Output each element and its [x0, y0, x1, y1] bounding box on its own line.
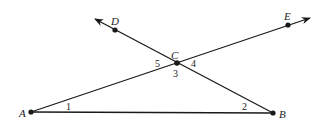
- ray-ace: [31, 18, 310, 112]
- label-point-a: A: [18, 107, 26, 119]
- angle-label-4: 4: [191, 58, 196, 69]
- angle-label-3: 3: [173, 68, 178, 79]
- angle-label-2: 2: [242, 101, 247, 112]
- geometry-diagram: A B C D E 1 2 3 4 5: [0, 0, 324, 125]
- label-point-b: B: [279, 108, 286, 120]
- point-e-dot: [285, 22, 290, 27]
- ray-bcd: [95, 19, 273, 113]
- angle-label-5: 5: [155, 58, 160, 69]
- point-d-dot: [112, 27, 117, 32]
- segment-ab: [31, 112, 273, 113]
- point-a-dot: [28, 109, 33, 114]
- point-c-dot: [174, 60, 180, 66]
- diagram-canvas: A B C D E 1 2 3 4 5: [0, 0, 324, 125]
- label-point-d: D: [110, 15, 119, 27]
- point-b-dot: [270, 110, 275, 115]
- angle-label-1: 1: [66, 101, 71, 112]
- label-point-e: E: [283, 10, 291, 22]
- label-point-c: C: [171, 49, 179, 61]
